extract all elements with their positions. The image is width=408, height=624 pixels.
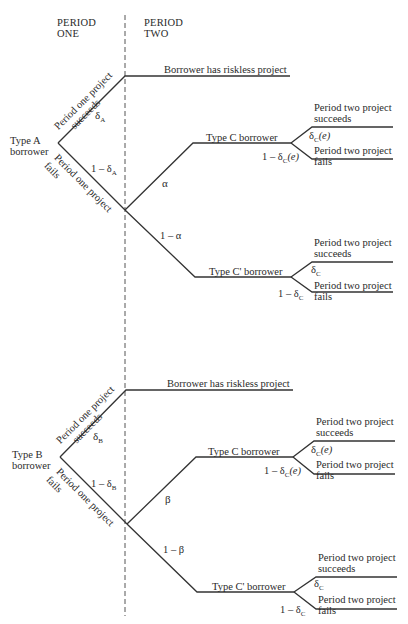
tree-b-cp-succeed-prob: δC — [314, 578, 324, 594]
tree-a-fail-prob: 1 – δA — [91, 163, 117, 179]
tree-a-cp-fail-outcome: Period two project — [314, 280, 392, 291]
outcome-line: Period two project — [316, 416, 394, 427]
tree-b-c-succeed-outcome: Period two project succeeds — [316, 416, 394, 438]
decision-tree-diagram: PERIOD ONE PERIOD TWO Type A borrower Pe… — [0, 0, 408, 624]
header-line: PERIOD — [144, 17, 183, 28]
tree-a-cp-succeed-outcome: Period two project succeeds — [314, 237, 392, 259]
tree-b-cp-succeed-outcome: Period two project succeeds — [318, 552, 396, 574]
tree-a-c-fail-outcome: Period two project — [314, 137, 392, 156]
period-two-header: PERIOD TWO — [144, 17, 183, 39]
root-line: borrower — [10, 146, 48, 157]
tree-b-fail-prob: 1 – δB — [91, 478, 116, 494]
tree-a-type-c-prime-label: Type C' borrower — [209, 266, 282, 277]
tree-a-type-c-label: Type C borrower — [206, 132, 278, 143]
outcome-line: succeeds — [314, 113, 392, 124]
period-one-header: PERIOD ONE — [57, 17, 96, 39]
tree-b-cp-fail-outcome-2: fails — [318, 605, 336, 616]
tree-b-one-minus-beta-prob: 1 – β — [163, 544, 184, 555]
tree-b-c-fail-outcome: Period two project — [316, 459, 394, 470]
outcome-line: succeeds — [316, 427, 394, 438]
tree-a-delta-a-prob: δA — [95, 110, 105, 126]
tree-a-alpha-prob: α — [162, 178, 168, 189]
tree-b-type-c-prime-label: Type C' borrower — [212, 581, 285, 592]
tree-b-riskless-outcome: Borrower has riskless project — [167, 378, 290, 389]
tree-a-c-fail-prob: 1 – δC(e) — [262, 151, 299, 167]
header-line: ONE — [57, 28, 96, 39]
outcome-line: Period two project — [314, 102, 392, 113]
tree-a-cp-succeed-edge — [291, 262, 393, 277]
tree-a-c-fail-outcome-2: fails — [314, 156, 332, 167]
root-line: borrower — [12, 460, 50, 471]
tree-a-one-minus-alpha-prob: 1 – α — [160, 230, 181, 241]
tree-b-c-fail-prob: 1 – δC(e) — [264, 465, 301, 481]
tree-b-c-fail-outcome-2: fails — [316, 470, 334, 481]
tree-b-type-c-label: Type C borrower — [208, 446, 280, 457]
tree-b-c-succeed-edge — [293, 441, 395, 457]
type-a-borrower-label: Type A borrower — [10, 135, 48, 157]
header-line: PERIOD — [57, 17, 96, 28]
header-line: TWO — [144, 28, 183, 39]
outcome-line: Period two project — [314, 145, 392, 156]
tree-a-c-succeed-outcome: Period two project succeeds — [314, 102, 392, 124]
tree-b-cp-fail-outcome: Period two project — [318, 594, 396, 605]
tree-a-cp-succeed-prob: δC — [311, 264, 321, 280]
outcome-line: Period two project — [314, 237, 392, 248]
tree-b-beta-prob: β — [165, 494, 171, 505]
tree-b-c-succeed-prob: δC(e) — [311, 444, 332, 460]
outcome-line: Period two project — [318, 552, 396, 563]
tree-b-cp-succeed-edge — [294, 577, 397, 592]
type-b-borrower-label: Type B borrower — [12, 449, 50, 471]
root-line: Type B — [12, 449, 50, 460]
tree-a-cp-fail-outcome-2: fails — [314, 291, 332, 302]
outcome-line: succeeds — [318, 563, 396, 574]
outcome-line: succeeds — [314, 248, 392, 259]
tree-a-cp-fail-prob: 1 – δC — [278, 288, 303, 304]
tree-b-cp-fail-prob: 1 – δC — [280, 604, 305, 620]
tree-lines — [0, 0, 408, 624]
root-line: Type A — [10, 135, 48, 146]
tree-b-delta-b-prob: δB — [93, 431, 103, 447]
tree-a-riskless-outcome: Borrower has riskless project — [164, 64, 287, 75]
